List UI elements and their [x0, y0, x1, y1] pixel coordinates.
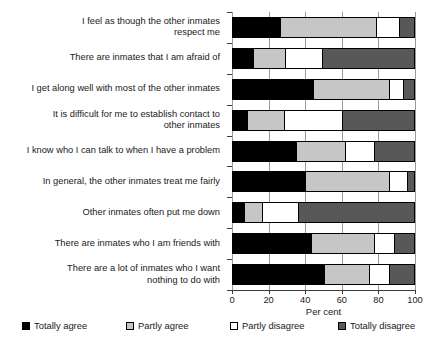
legend-item[interactable]: Partly agree: [126, 320, 189, 331]
bar-segment: [233, 265, 324, 284]
bar-segment: [233, 203, 244, 222]
bar-segment: [253, 49, 286, 68]
bar-row: [232, 171, 415, 192]
x-tick-mark: [269, 290, 270, 294]
stacked-bar: [232, 264, 415, 285]
bar-segment: [342, 111, 414, 130]
bar-row: [232, 233, 415, 254]
legend-item[interactable]: Totally agree: [22, 320, 87, 331]
legend-label: Totally agree: [34, 320, 87, 331]
bar-segment: [305, 172, 388, 191]
category-label: I get along well with most of the other …: [31, 83, 220, 95]
bar-row: [232, 202, 415, 223]
stacked-bar: [232, 202, 415, 223]
stacked-bar: [232, 141, 415, 162]
stacked-bar: [232, 17, 415, 38]
stacked-bar: [232, 110, 415, 131]
category-label: There are a lot of inmates who I want no…: [67, 263, 220, 286]
bar-segment: [233, 111, 247, 130]
stacked-bar-chart: I feel as though the other inmates respe…: [0, 0, 437, 351]
x-tick-mark: [415, 290, 416, 294]
legend-swatch-icon: [230, 322, 238, 330]
x-tick-mark: [232, 290, 233, 294]
bar-segment: [345, 142, 374, 161]
x-tick-label: 0: [229, 295, 234, 306]
x-tick-label: 20: [263, 295, 273, 306]
x-tick-label: 100: [407, 295, 423, 306]
x-axis-title: Per cent: [232, 306, 415, 317]
bar-segment: [374, 142, 414, 161]
bar-segment: [399, 18, 413, 37]
bar-segment: [394, 234, 414, 253]
bar-segment: [262, 203, 298, 222]
x-tick-label: 40: [300, 295, 310, 306]
category-label: I know who I can talk to when I have a p…: [27, 145, 220, 157]
bar-row: [232, 110, 415, 131]
bar-segment: [389, 265, 414, 284]
bar-segment: [233, 234, 311, 253]
legend-swatch-icon: [338, 322, 346, 330]
bar-segment: [233, 18, 280, 37]
bar-segment: [298, 203, 414, 222]
category-label: In general, the other inmates treat me f…: [43, 176, 220, 188]
x-tick-label: 60: [337, 295, 347, 306]
legend-item[interactable]: Totally disagree: [338, 320, 415, 331]
category-label: Other inmates often put me down: [83, 207, 220, 219]
bar-segment: [369, 265, 389, 284]
bar-segment: [284, 111, 342, 130]
bar-segment: [403, 80, 414, 99]
category-label: It is difficult for me to establish cont…: [53, 109, 220, 132]
bar-segment: [313, 80, 389, 99]
category-label: There are inmates that I am afraid of: [70, 52, 220, 64]
legend-label: Partly disagree: [242, 320, 305, 331]
bar-row: [232, 17, 415, 38]
bar-segment: [247, 111, 283, 130]
legend-label: Totally disagree: [350, 320, 415, 331]
bar-row: [232, 141, 415, 162]
bar-row: [232, 264, 415, 285]
bar-segment: [374, 234, 394, 253]
legend-swatch-icon: [126, 322, 134, 330]
bar-segment: [244, 203, 262, 222]
bar-segment: [233, 49, 253, 68]
stacked-bar: [232, 48, 415, 69]
bar-segment: [324, 265, 369, 284]
plot-area: [232, 12, 415, 290]
category-axis-labels: I feel as though the other inmates respe…: [0, 0, 226, 290]
bar-segment: [280, 18, 376, 37]
legend-item[interactable]: Partly disagree: [230, 320, 305, 331]
bar-segment: [407, 172, 414, 191]
category-label: There are inmates who I am friends with: [55, 238, 220, 250]
bar-segment: [285, 49, 321, 68]
category-label: I feel as though the other inmates respe…: [82, 16, 220, 39]
legend-swatch-icon: [22, 322, 30, 330]
bar-row: [232, 79, 415, 100]
bar-segment: [296, 142, 345, 161]
bar-segment: [233, 142, 296, 161]
bar-segment: [233, 172, 305, 191]
bar-segment: [322, 49, 414, 68]
x-tick-label: 80: [373, 295, 383, 306]
stacked-bar: [232, 79, 415, 100]
chart-legend: Totally agreePartly agreePartly disagree…: [22, 320, 422, 336]
legend-label: Partly agree: [138, 320, 189, 331]
bar-rows: [232, 12, 415, 290]
x-tick-mark: [378, 290, 379, 294]
gridline-100: [415, 12, 416, 290]
bar-segment: [233, 80, 313, 99]
x-tick-mark: [305, 290, 306, 294]
bar-segment: [389, 80, 403, 99]
bar-segment: [389, 172, 407, 191]
x-tick-mark: [342, 290, 343, 294]
stacked-bar: [232, 171, 415, 192]
stacked-bar: [232, 233, 415, 254]
bar-segment: [311, 234, 374, 253]
bar-row: [232, 48, 415, 69]
bar-segment: [376, 18, 400, 37]
